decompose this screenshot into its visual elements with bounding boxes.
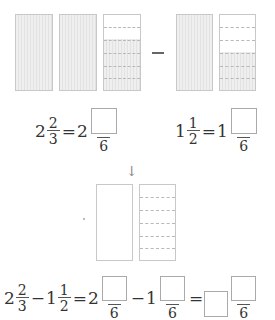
final-equation: 2 23 − 1 12 = 2 6 − 1 6 = 6 — [4, 276, 259, 320]
conversion-2: 1 12 = 1 6 — [175, 108, 260, 153]
result-partial-bar — [139, 184, 176, 261]
minus-sign — [152, 52, 164, 54]
whole-bar-1 — [15, 14, 53, 91]
arrow-down-icon: ↓ — [126, 163, 138, 179]
answer-box[interactable] — [231, 276, 256, 301]
answer-box-whole[interactable] — [204, 291, 228, 317]
conversion-1: 2 23 = 2 6 — [35, 108, 120, 153]
partial-bar-left — [103, 14, 141, 91]
answer-box[interactable] — [91, 108, 117, 134]
dot — [83, 218, 85, 220]
answer-box[interactable] — [102, 276, 127, 301]
result-whole-bar — [96, 184, 133, 261]
whole-bar-2 — [59, 14, 97, 91]
partial-bar-right — [219, 14, 256, 91]
answer-box[interactable] — [231, 108, 257, 134]
whole-bar-3 — [176, 14, 213, 91]
answer-box[interactable] — [160, 276, 185, 301]
